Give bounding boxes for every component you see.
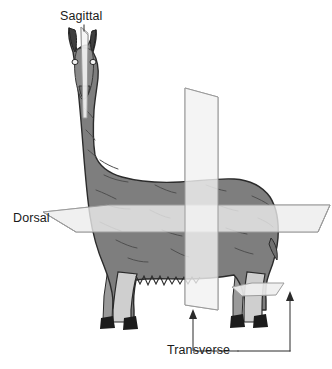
llama-planes-illustration (0, 0, 332, 369)
arrowhead-transverse-plane (189, 309, 197, 319)
llama-eye-left (72, 59, 78, 64)
plane-transverse-limb (232, 283, 284, 296)
label-sagittal: Sagittal (60, 9, 103, 23)
label-transverse: Transverse (167, 343, 230, 357)
arrowhead-transverse-limb (286, 291, 294, 301)
llama-eye-right (90, 59, 96, 64)
anatomical-planes-figure: Sagittal Dorsal Transverse (0, 0, 332, 369)
plane-transverse-front (185, 88, 218, 310)
label-dorsal: Dorsal (13, 211, 50, 225)
